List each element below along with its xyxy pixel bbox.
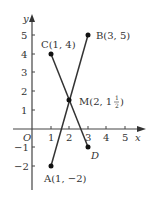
x-tick-label: 4 [103,132,109,143]
point-C [49,52,54,57]
x-axis-label: x [135,132,141,143]
x-tick-label: 5 [122,132,128,143]
point-B [86,33,91,38]
point-D [86,145,91,150]
svg-text:M(2, 1: M(2, 1 [79,96,112,107]
point-B-label: B(3, 5) [96,30,130,41]
y-axis-label: y [22,13,29,24]
y-tick-label: 4 [21,49,27,60]
coordinate-diagram: 5 4 3 2 1 −1 −2 1 2 3 4 5 y x O A(1, −2)… [0,0,150,197]
origin-label: O [23,132,31,143]
x-tick-label: 1 [48,132,54,143]
y-tick-label: 3 [21,67,27,78]
y-axis-arrow-icon [29,14,35,22]
y-tick-label: −2 [14,161,29,172]
svg-text:): ) [120,96,124,107]
point-A-label: A(1, −2) [43,173,87,184]
x-tick-label: 2 [66,132,72,143]
y-tick-label: 2 [21,86,27,97]
point-M-label: M(2, 1 1 2 ) [79,94,124,109]
y-tick-label: −1 [14,142,29,153]
point-A [49,164,54,169]
y-tick-label: 5 [21,30,27,41]
point-D-label: D [90,150,99,161]
fraction-denominator: 2 [115,102,119,109]
point-M [67,98,72,103]
point-C-label: C(1, 4) [41,39,76,50]
fraction-numerator: 1 [115,94,119,101]
y-tick-label: 1 [21,105,27,116]
